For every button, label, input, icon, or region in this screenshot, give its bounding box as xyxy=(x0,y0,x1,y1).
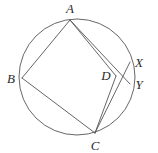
point-label-c: C xyxy=(91,139,100,152)
segment-a-to-y xyxy=(70,20,130,84)
point-label-d: D xyxy=(101,69,110,82)
segment-bc xyxy=(22,78,95,133)
segment-ab xyxy=(22,20,70,78)
point-label-a: A xyxy=(66,2,74,15)
circle-group xyxy=(19,19,135,135)
circumcircle xyxy=(19,19,135,135)
point-label-x: X xyxy=(135,56,143,69)
geometry-canvas xyxy=(0,0,158,153)
point-label-b: B xyxy=(7,72,15,85)
geometry-figure: A B C D X Y xyxy=(0,0,158,153)
segments-group xyxy=(22,20,130,133)
segment-cd xyxy=(95,76,116,133)
point-label-y: Y xyxy=(135,78,142,91)
